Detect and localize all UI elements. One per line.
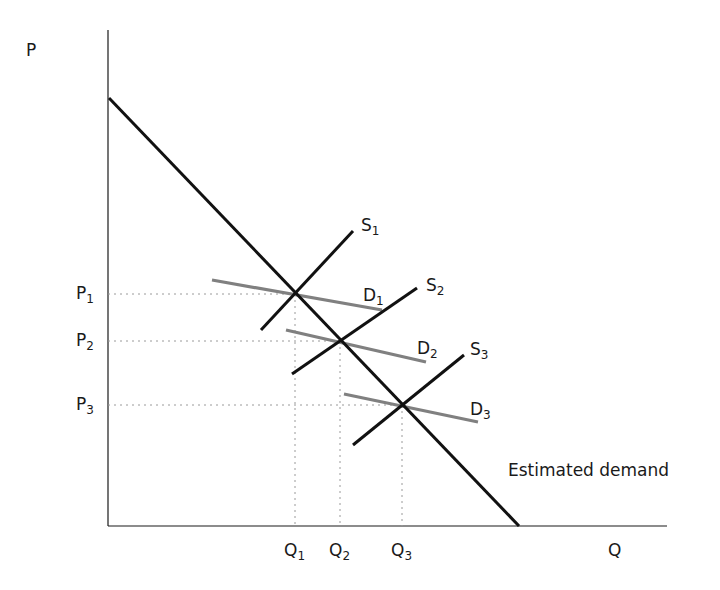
s3-text: S [470,339,481,359]
s3-sub: 3 [481,348,489,362]
supply-label-s1: S1 [361,217,379,234]
q3-sub: 3 [404,549,412,563]
shifted-demand-curves [212,280,478,422]
d2-text: D [417,338,430,358]
p1-sub: 1 [86,292,94,306]
d2-sub: 2 [430,347,438,361]
quantity-label-q2: Q2 [329,542,350,559]
p2-text: P [76,330,86,350]
supply-curve-s1 [261,231,353,330]
p3-text: P [76,394,86,414]
q2-sub: 2 [342,549,350,563]
p3-sub: 3 [86,403,94,417]
x-axis-label: Q [608,542,621,559]
price-label-p1: P1 [76,285,94,302]
p2-sub: 2 [86,339,94,353]
price-label-p2: P2 [76,332,94,349]
estimated-demand-curve [109,98,519,526]
supply-label-s3: S3 [470,341,488,358]
demand-label-d2: D2 [417,340,438,357]
demand-label-d1: D1 [363,287,384,304]
q3-text: Q [391,540,404,560]
demand-label-d3: D3 [470,401,491,418]
d1-sub: 1 [376,294,384,308]
supply-label-s2: S2 [426,277,444,294]
quantity-label-q1: Q1 [284,542,305,559]
s1-text: S [361,215,372,235]
p1-text: P [76,283,86,303]
d3-text: D [470,399,483,419]
price-label-p3: P3 [76,396,94,413]
s2-sub: 2 [437,284,445,298]
q2-text: Q [329,540,342,560]
quantity-label-q3: Q3 [391,542,412,559]
d3-sub: 3 [483,408,491,422]
q1-text: Q [284,540,297,560]
diagram-canvas [0,0,720,590]
supply-curve-s2 [292,288,417,374]
s1-sub: 1 [372,224,380,238]
q1-sub: 1 [297,549,305,563]
s2-text: S [426,275,437,295]
y-axis-label: P [26,42,36,59]
estimated-demand-label: Estimated demand [508,462,669,479]
d1-text: D [363,285,376,305]
